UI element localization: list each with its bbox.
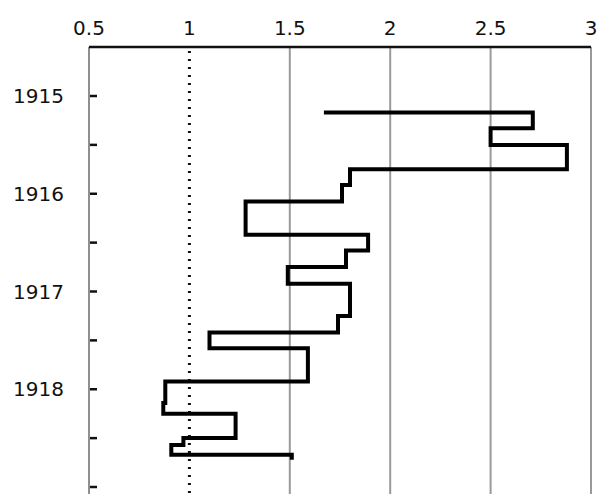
x-tick-label: 2.5 xyxy=(475,16,507,40)
data-series-step-line xyxy=(163,113,567,458)
x-tick-label: 0.5 xyxy=(73,16,105,40)
x-tick-label: 1 xyxy=(183,16,196,40)
y-axis-labels: 1915191619171918 xyxy=(13,84,64,401)
y-axis-ticks xyxy=(90,96,97,487)
x-tick-label: 3 xyxy=(585,16,598,40)
y-tick-label: 1915 xyxy=(13,84,64,108)
y-tick-label: 1917 xyxy=(13,280,64,304)
y-tick-label: 1916 xyxy=(13,182,64,206)
x-tick-label: 2 xyxy=(384,16,397,40)
step-chart: 1915191619171918 0.511.522.53 xyxy=(0,0,604,499)
y-tick-label: 1918 xyxy=(13,377,64,401)
x-axis-labels: 0.511.522.53 xyxy=(73,16,597,40)
x-tick-label: 1.5 xyxy=(274,16,306,40)
